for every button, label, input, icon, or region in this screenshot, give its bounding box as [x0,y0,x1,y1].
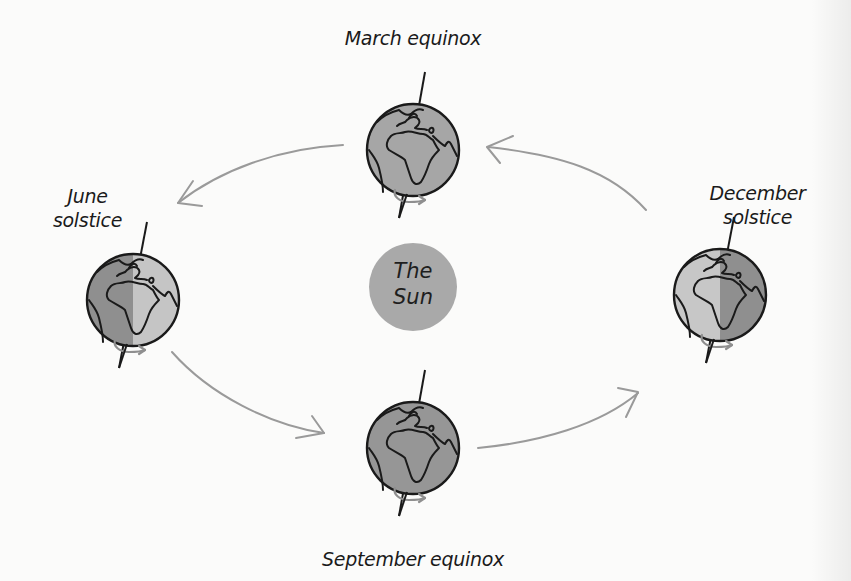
label-december-solstice: December solstice [700,181,815,229]
label-june-solstice: June solstice [40,184,135,232]
arrow-june-to-september [172,352,324,433]
arrow-head-december [618,388,638,417]
label-march-line: March equinox [338,26,488,50]
label-december-line1: December [700,181,815,205]
label-march-equinox: March equinox [338,26,488,50]
label-june-line2: solstice [40,208,135,232]
earth-globe-icon-march [367,72,459,218]
arrow-march-to-june [178,145,343,203]
arrow-december-to-march [488,147,646,210]
label-december-line2: solstice [700,205,815,229]
earth-globe-icon-december [674,217,766,363]
sun-label: The Sun [368,258,458,310]
arrow-head-september [296,416,324,438]
label-september-equinox: September equinox [318,547,508,571]
arrow-september-to-december [478,393,638,448]
sun-label-line2: Sun [368,284,458,310]
sun-label-line1: The [368,258,458,284]
earth-globe-icon-june [87,222,179,368]
earth-globe-icon-september [367,370,459,516]
label-september-line: September equinox [318,547,508,571]
label-june-line1: June [40,184,135,208]
